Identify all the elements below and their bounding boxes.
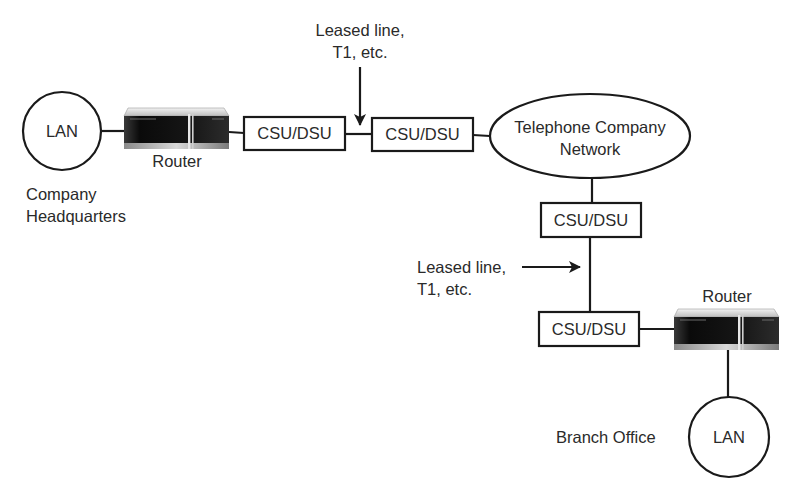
branch-router-icon	[674, 309, 779, 350]
csu-dsu-3: CSU/DSU	[541, 203, 641, 237]
leased-line-side-label-line1: Leased line,	[417, 258, 506, 276]
branch-site-label: Branch Office	[556, 428, 656, 446]
telco-network-node: Telephone Company Network	[490, 94, 690, 178]
csu2-to-telco-link	[473, 135, 490, 136]
csu-dsu-1-label: CSU/DSU	[257, 124, 331, 142]
csu-dsu-1: CSU/DSU	[244, 117, 345, 150]
branch-lan-node: LAN	[689, 397, 769, 477]
branch-lan-label: LAN	[713, 428, 745, 446]
csu-dsu-3-label: CSU/DSU	[554, 211, 628, 229]
telco-network-label-line1: Telephone Company	[514, 118, 666, 136]
hq-lan-node: LAN	[23, 92, 101, 170]
csu-dsu-2-label: CSU/DSU	[385, 125, 459, 143]
leased-line-top-label-line2: T1, etc.	[332, 43, 387, 61]
hq-router-to-csu1-link	[229, 132, 244, 133]
hq-site-label-line2: Headquarters	[26, 207, 126, 225]
hq-lan-label: LAN	[46, 122, 78, 140]
csu-dsu-2: CSU/DSU	[372, 118, 473, 151]
wan-diagram: LAN Company Headquarters Router CSU/DSU …	[0, 0, 803, 491]
csu-dsu-4-label: CSU/DSU	[552, 320, 626, 338]
hq-site-label-line1: Company	[26, 185, 97, 203]
telco-network-label-line2: Network	[560, 140, 621, 158]
hq-router-icon	[124, 108, 229, 149]
leased-line-side-label-line2: T1, etc.	[417, 280, 472, 298]
csu-dsu-4: CSU/DSU	[539, 312, 639, 346]
telco-network-ellipse	[490, 94, 690, 178]
hq-router-label: Router	[152, 152, 202, 170]
leased-line-top-label-line1: Leased line,	[316, 21, 405, 39]
branch-router-label: Router	[702, 287, 752, 305]
